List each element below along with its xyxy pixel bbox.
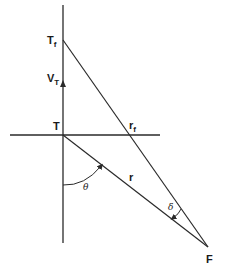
label-vt: VT [47,72,59,87]
label-r: r [129,171,134,183]
label-f: F [206,253,213,265]
label-delta: δ [168,202,173,212]
intercept-geometry-diagram: Tf VT T rf r θ δ F [0,0,242,272]
label-tf: Tf [47,34,57,49]
label-rf: rf [129,119,136,134]
label-theta: θ [83,182,89,192]
label-t: T [53,120,60,132]
theta-arc [63,166,101,185]
delta-arc [173,209,181,218]
line-tf-to-f [63,40,208,247]
velocity-arrow-icon [60,80,66,87]
